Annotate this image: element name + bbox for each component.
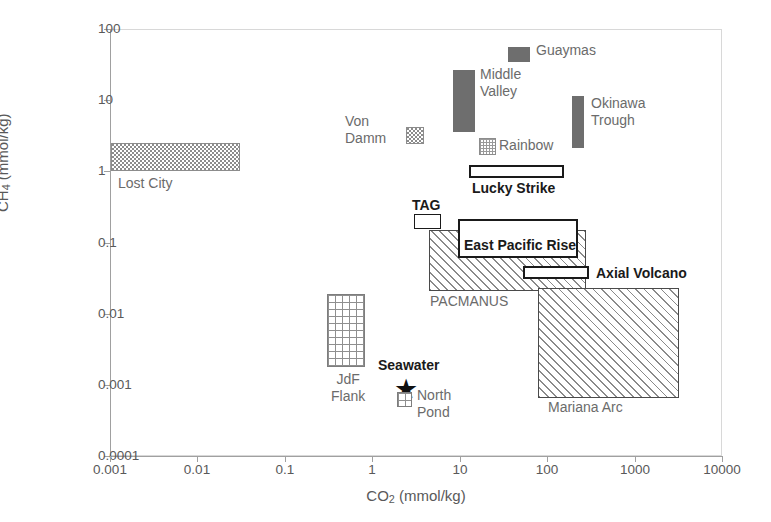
x-tick-label-1: 1 (368, 462, 376, 477)
region-lost-city (111, 143, 240, 171)
x-tick-label-10: 10 (452, 462, 467, 477)
x-tick-label-100: 100 (536, 462, 559, 477)
region-label-rainbow: Rainbow (499, 137, 553, 154)
x-tick-label-1000: 1000 (620, 462, 650, 477)
region-tag (414, 214, 441, 229)
region-label-middle-valley: Middle Valley (480, 66, 521, 99)
region-label-axial-volcano: Axial Volcano (596, 265, 687, 282)
region-jdf-flank (327, 294, 365, 367)
x-axis-line (110, 456, 723, 457)
region-label-lost-city: Lost City (118, 175, 172, 192)
region-middle-valley (453, 70, 475, 132)
region-north-pond (397, 392, 412, 407)
region-label-von-damm: Von Damm (345, 113, 386, 146)
x-axis-title: CO2 (mmol/kg) (366, 487, 465, 505)
region-label-jdf-flank: JdF Flank (331, 371, 365, 404)
region-label-guaymas: Guaymas (536, 42, 596, 59)
region-label-okinawa-trough: Okinawa Trough (591, 95, 645, 128)
region-rainbow (479, 138, 496, 155)
region-okinawa-trough (572, 96, 584, 148)
x-tick-label-0.1: 0.1 (276, 462, 295, 477)
x-tick-label-10000: 10000 (703, 462, 741, 477)
region-label-lucky-strike: Lucky Strike (472, 180, 555, 197)
region-label-mariana-arc: Mariana Arc (548, 399, 623, 416)
chart-figure: 100 10 1 0.1 0.01 0.001 0.0001 CH4 (mmol… (0, 0, 771, 522)
region-mariana-arc (538, 288, 679, 398)
x-tick-label-0.001: 0.001 (93, 462, 127, 477)
region-axial-volcano (523, 266, 589, 279)
x-tick-label-0.01: 0.01 (184, 462, 210, 477)
region-guaymas (508, 47, 530, 62)
region-label-east-pacific-rise: East Pacific Rise (464, 237, 576, 254)
y-axis-title: CH4 (mmol/kg) (0, 113, 12, 212)
region-label-north-pond: North Pond (417, 387, 451, 420)
region-von-damm (406, 127, 424, 144)
region-label-tag: TAG (412, 197, 441, 214)
region-label-pacmanus: PACMANUS (430, 293, 508, 310)
region-lucky-strike (469, 165, 564, 178)
marker-label-seawater: Seawater (378, 357, 439, 374)
